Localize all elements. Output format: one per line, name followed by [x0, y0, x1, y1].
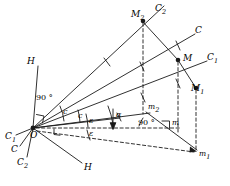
base-O-to-m1: [37, 131, 194, 152]
ray-label-H-upper-left: H: [27, 57, 35, 66]
ray-O-to-C: [33, 34, 195, 128]
ray-O-to-H-lower: [33, 128, 82, 163]
point-label-m1: m1: [199, 150, 210, 160]
angle-label-90-at-O: 90 °: [36, 94, 53, 102]
vertex-dot-M: [176, 58, 181, 63]
point-label-M1: M1: [191, 84, 204, 95]
alpha-arrow-head: [110, 123, 115, 130]
arc-epsilon-upper: [86, 114, 88, 127]
ray-label-C2-top: C2: [155, 4, 166, 15]
arc-alpha: [108, 106, 113, 124]
angle-label-epsilon-upper: ε: [89, 117, 93, 125]
ray-label-C-lower-left: C: [11, 145, 18, 154]
angle-label-90-at-m: 90 °: [138, 119, 155, 127]
ray-label-C2-lower-left: C2: [17, 158, 28, 169]
angle-label-c-outer: c: [63, 108, 67, 116]
point-label-M2: M2: [131, 10, 144, 21]
ray-label-C1-upper-right: C1: [207, 53, 218, 64]
angle-label-alpha: α: [116, 111, 121, 119]
tick-ray-C-2: [176, 41, 180, 50]
angle-label-epsilon-lower: ε: [89, 130, 93, 138]
point-label-m: m: [172, 119, 179, 127]
point-label-O: O: [30, 131, 37, 140]
tick-ray-C1-1: [141, 93, 145, 102]
angle-label-c-inner: c: [78, 112, 82, 120]
ray-O-to-C2-top: [33, 6, 164, 128]
ray-label-C1-lower-left: C1: [5, 132, 16, 143]
geometry-diagram: M2 M M1 O m2 m m1 C2 C C1 H H C1 C C2 90…: [0, 0, 230, 186]
ray-label-H-lower-right: H: [84, 163, 92, 172]
point-label-m2: m2: [148, 103, 159, 113]
point-label-M: M: [183, 54, 192, 63]
ray-label-C-upper-right: C: [195, 26, 202, 35]
